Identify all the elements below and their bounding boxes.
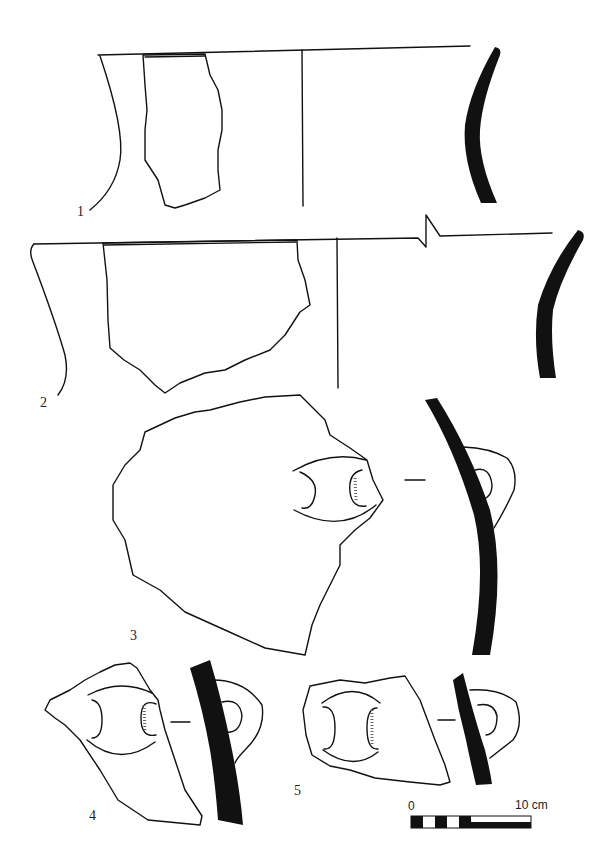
lug-shading-3 [355, 478, 356, 500]
sherd-2: 2 [31, 215, 584, 410]
lug-bottom-5 [323, 750, 378, 762]
label-2: 2 [40, 395, 47, 410]
lug-left-hole-3 [300, 472, 315, 508]
lug-top-5 [322, 692, 380, 704]
section-4 [190, 660, 243, 825]
lug-profile-hole-5 [478, 704, 497, 735]
lug-left-hole-5 [323, 707, 335, 749]
rim-edge-1 [145, 56, 205, 57]
axis-line-1 [302, 50, 303, 206]
lug-top-3 [293, 457, 366, 471]
scale-bar: 0 10 cm [408, 798, 548, 828]
scale-seg-5 [459, 816, 471, 828]
scale-seg-6 [471, 822, 531, 828]
lug-right-hole-4 [141, 703, 156, 736]
label-5: 5 [294, 783, 301, 798]
lug-shading-4 [144, 705, 145, 732]
section-2 [536, 230, 584, 378]
fragment-outline-3 [113, 395, 383, 655]
lug-top-4 [88, 686, 152, 695]
sherd-3: 3 [113, 395, 515, 655]
lug-right-hole-3 [350, 470, 366, 506]
fragment-outline-2 [103, 240, 310, 393]
scale-seg-3 [435, 816, 447, 828]
label-1: 1 [77, 204, 84, 219]
rim-line-1 [98, 46, 470, 55]
outer-profile-1 [90, 56, 121, 210]
section-3 [425, 398, 498, 655]
scale-start-label: 0 [408, 799, 415, 813]
fragment-outline-1 [143, 54, 222, 208]
sherd-4: 4 [45, 660, 263, 825]
fragment-outline-4 [45, 663, 202, 825]
axis-line-2 [337, 238, 338, 388]
scale-end-label: 10 cm [515, 798, 548, 812]
outer-profile-2 [31, 244, 67, 395]
fragment-outline-5 [303, 676, 450, 785]
label-3: 3 [130, 628, 137, 643]
lug-left-hole-4 [92, 700, 102, 738]
section-1 [465, 47, 501, 203]
label-4: 4 [89, 808, 96, 823]
scale-seg-1 [411, 816, 423, 828]
sherd-1: 1 [77, 46, 500, 219]
lug-bottom-4 [87, 740, 155, 755]
pottery-plate: 1 2 3 4 [0, 0, 613, 866]
sherd-5: 5 [294, 673, 519, 798]
